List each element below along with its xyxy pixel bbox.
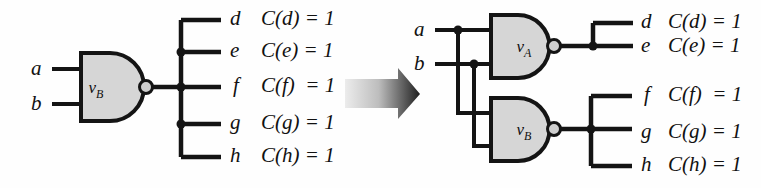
gate-vb-bubble bbox=[548, 123, 561, 136]
junction-dot-de bbox=[589, 42, 598, 51]
left-cost-h: C(h) = 1 bbox=[261, 145, 335, 166]
left-cost-d: C(d) = 1 bbox=[261, 8, 335, 29]
right-cost-h: C(h) = 1 bbox=[668, 154, 742, 175]
right-input-label-a: a bbox=[414, 19, 425, 40]
junction-dot-g bbox=[587, 125, 596, 134]
junction-dot-g bbox=[177, 120, 186, 129]
right-cost-g: C(g) = 1 bbox=[668, 121, 742, 142]
junction-dot-a bbox=[454, 26, 463, 35]
left-input-label-b: b bbox=[31, 93, 42, 114]
left-output-label-e: e bbox=[230, 40, 239, 61]
junction-dot-f bbox=[177, 83, 186, 92]
right-output-label-h: h bbox=[641, 154, 652, 175]
left-cost-f: C(f) = 1 bbox=[261, 75, 335, 96]
right-output-label-g: g bbox=[641, 121, 652, 142]
right-cost-f: C(f) = 1 bbox=[668, 84, 742, 105]
right-cost-d: C(d) = 1 bbox=[668, 11, 742, 32]
gate-va-bubble bbox=[548, 40, 561, 53]
right-circuit bbox=[435, 15, 633, 166]
right-output-label-f: f bbox=[644, 84, 650, 105]
arrow-shape bbox=[345, 68, 420, 119]
right-input-label-b: b bbox=[414, 53, 425, 74]
left-output-label-g: g bbox=[230, 112, 241, 133]
left-output-label-d: d bbox=[230, 8, 241, 29]
right-top-output-bus bbox=[561, 23, 633, 46]
transformation-arrow bbox=[345, 68, 420, 119]
left-circuit bbox=[52, 20, 221, 157]
left-output-bus bbox=[153, 20, 221, 157]
left-cost-e: C(e) = 1 bbox=[261, 40, 334, 61]
gate-vb-bubble bbox=[140, 81, 153, 94]
right-input-wires bbox=[435, 30, 491, 146]
right-bottom-output-bus bbox=[561, 96, 632, 166]
right-output-label-e: e bbox=[641, 35, 650, 56]
right-cost-e: C(e) = 1 bbox=[668, 35, 741, 56]
left-output-label-f: f bbox=[233, 75, 239, 96]
left-input-wires bbox=[52, 69, 81, 104]
left-input-label-a: a bbox=[31, 58, 42, 79]
diagram-canvas: vB vA vB a b d e f g h C(d) = 1 C(e) = 1… bbox=[0, 0, 761, 188]
left-output-label-h: h bbox=[230, 145, 241, 166]
junction-dot-e bbox=[177, 48, 186, 57]
junction-dot-b bbox=[470, 60, 479, 69]
right-output-label-d: d bbox=[641, 11, 652, 32]
left-cost-g: C(g) = 1 bbox=[261, 112, 335, 133]
